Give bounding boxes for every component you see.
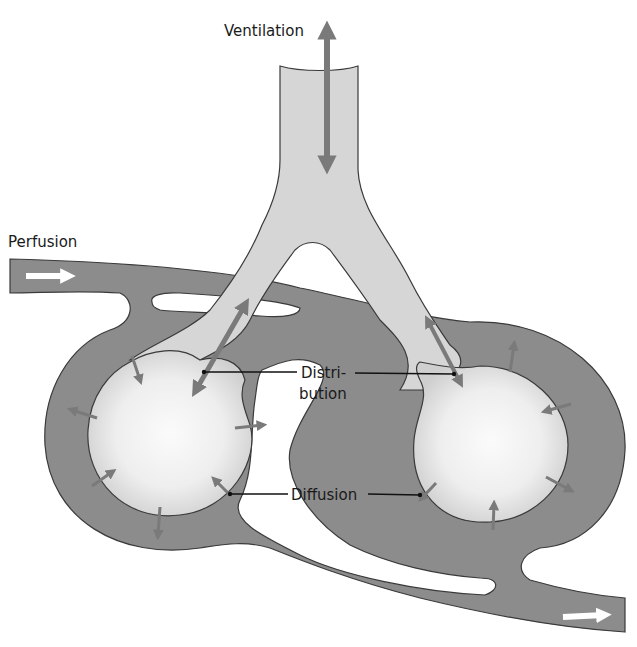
distribution-label-line2: bution [299,385,347,403]
lung-diagram: Ventilation Perfusion Distri- bution Dif… [0,0,637,647]
diffusion-label: Diffusion [291,486,357,504]
ventilation-label: Ventilation [224,22,304,40]
perfusion-label: Perfusion [8,233,77,251]
perfusion-out-arrow [563,615,604,617]
distribution-label-line1: Distri- [301,364,346,382]
